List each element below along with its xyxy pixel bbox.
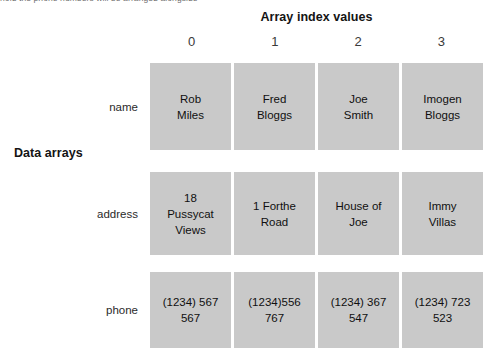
cell-name-2: JoeSmith: [318, 63, 399, 150]
array-row-address: address 18PussycatViews 1 FortheRoad Hou…: [150, 172, 483, 255]
arrays-grid: name RobMiles FredBloggs JoeSmith Imogen…: [150, 63, 483, 348]
cell-address-2: House ofJoe: [318, 172, 399, 255]
row-label-name: name: [109, 101, 138, 113]
cell-name-1: FredBloggs: [234, 63, 315, 150]
cell-phone-2: (1234) 367547: [318, 272, 399, 348]
cell-address-1: 1 FortheRoad: [234, 172, 315, 255]
cell-address-3: ImmyVillas: [402, 172, 483, 255]
data-arrays-title: Data arrays: [14, 146, 83, 160]
array-index-header-row: 0 1 2 3: [150, 34, 483, 54]
row-label-phone: phone: [106, 304, 138, 316]
array-index-0: 0: [150, 34, 233, 54]
cell-address-0: 18PussycatViews: [150, 172, 231, 255]
array-row-phone: phone (1234) 567567 (1234)556767 (1234) …: [150, 272, 483, 348]
cell-name-0: RobMiles: [150, 63, 231, 150]
cell-phone-3: (1234) 723523: [402, 272, 483, 348]
clipped-caption-text: hold the phone numbers will be arranged …: [0, 0, 300, 6]
array-index-2: 2: [317, 34, 400, 54]
cell-phone-0: (1234) 567567: [150, 272, 231, 348]
cell-phone-1: (1234)556767: [234, 272, 315, 348]
array-index-3: 3: [400, 34, 483, 54]
cell-name-3: ImogenBloggs: [402, 63, 483, 150]
row-label-address: address: [97, 208, 138, 220]
array-row-name: name RobMiles FredBloggs JoeSmith Imogen…: [150, 63, 483, 150]
array-index-values-title: Array index values: [150, 10, 483, 24]
array-index-1: 1: [233, 34, 316, 54]
